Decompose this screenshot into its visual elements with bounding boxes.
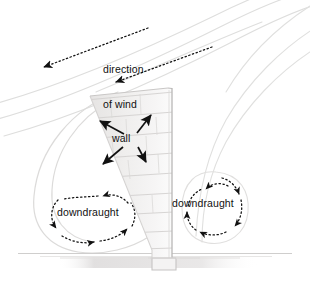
vortex-right-seg-top-right (222, 178, 239, 194)
downdraught-vortex-left (52, 195, 135, 243)
label-direction-of-wind-line1: direction (103, 64, 144, 76)
diagram-canvas (0, 0, 310, 288)
label-downdraught-left: downdraught (57, 207, 119, 219)
label-wall: wall (112, 133, 131, 145)
vortex-right-seg-bottom-left (187, 212, 196, 230)
vortex-right-seg-bottom (200, 232, 226, 235)
vortex-left-seg-upper-left (64, 196, 98, 199)
wall-footing (152, 258, 176, 270)
label-direction-of-wind: direction of wind (103, 40, 144, 134)
label-downdraught-right: downdraught (172, 198, 234, 210)
vortex-right-seg-right (235, 200, 242, 226)
wind-wall-diagram: direction of wind wall downdraught downd… (0, 0, 310, 288)
vortex-left-seg-bottom-right (100, 229, 127, 241)
vortex-left-seg-top (103, 195, 128, 203)
label-direction-of-wind-line2: of wind (103, 99, 144, 111)
